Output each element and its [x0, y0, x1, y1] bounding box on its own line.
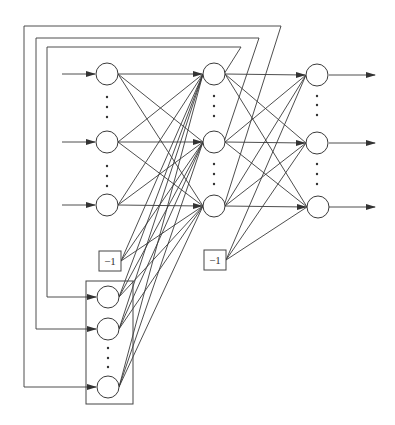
bias-label-1: −1	[104, 255, 116, 267]
input-arrows	[62, 74, 95, 205]
hidden-node-1	[203, 63, 225, 85]
bias-output-weights	[226, 75, 307, 260]
context-node-3	[97, 376, 119, 398]
bias-label-2: −1	[209, 254, 221, 266]
hidden-output-weights	[225, 74, 307, 207]
output-node-1	[306, 64, 328, 86]
input-node-2	[96, 131, 118, 153]
output-node-2	[306, 132, 328, 154]
output-arrows	[329, 75, 375, 207]
input-node-3	[96, 194, 118, 216]
output-node-3	[307, 196, 329, 218]
context-hidden-weights	[119, 74, 203, 387]
input-layer	[96, 63, 118, 216]
elman-network-diagram: −1 −1	[0, 0, 395, 425]
context-node-2	[97, 318, 119, 340]
bias-unit-hidden: −1	[99, 251, 121, 271]
context-node-1	[97, 286, 119, 308]
input-node-1	[96, 63, 118, 85]
hidden-node-3	[203, 195, 225, 217]
context-layer	[97, 286, 119, 398]
hidden-node-2	[203, 131, 225, 153]
hidden-layer	[203, 63, 225, 217]
bias-unit-output: −1	[204, 250, 226, 270]
output-layer	[306, 64, 329, 218]
